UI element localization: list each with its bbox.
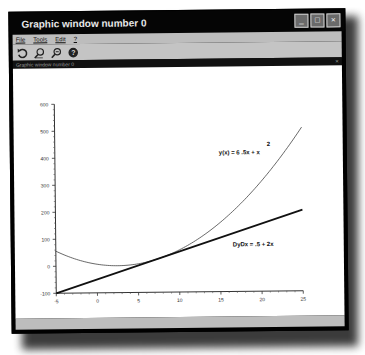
y-tick-label: 300 bbox=[41, 182, 50, 188]
zoom-out-button[interactable] bbox=[51, 47, 62, 58]
y-tick-label: 100 bbox=[41, 236, 50, 242]
menu-tools[interactable]: Tools bbox=[33, 34, 47, 44]
svg-text:?: ? bbox=[71, 49, 75, 56]
x-tick-label: 5 bbox=[137, 297, 140, 303]
x-tick-label: 10 bbox=[177, 297, 183, 303]
menu-help[interactable]: ? bbox=[74, 34, 77, 44]
y-tick-label: 200 bbox=[41, 209, 50, 215]
menu-edit[interactable]: Edit bbox=[55, 34, 65, 44]
zoom-in-button[interactable] bbox=[34, 47, 45, 58]
zoom-out-icon bbox=[51, 47, 62, 58]
status-bar bbox=[16, 315, 345, 329]
zoom-in-icon bbox=[34, 47, 45, 58]
rotate-button[interactable] bbox=[17, 47, 28, 58]
x-tick-label: 25 bbox=[301, 296, 307, 302]
x-tick-label: 0 bbox=[96, 298, 99, 304]
series-line bbox=[55, 210, 303, 294]
menu-file[interactable]: File bbox=[16, 35, 26, 45]
rotate-icon bbox=[17, 47, 28, 58]
curve-label-superscript: 2 bbox=[267, 141, 271, 147]
close-button[interactable]: × bbox=[326, 13, 340, 27]
window-title: Graphic window number 0 bbox=[21, 17, 146, 29]
minimize-button[interactable]: _ bbox=[294, 14, 308, 28]
curve-label: y(x) = 6 .5x + x bbox=[219, 149, 261, 155]
plot-area[interactable]: -1000100200300400500600-50510152025y(x) … bbox=[13, 65, 345, 318]
help-button[interactable]: ? bbox=[68, 47, 79, 58]
y-tick-label: 500 bbox=[40, 128, 49, 134]
x-tick-label: -5 bbox=[54, 298, 59, 304]
maximize-button[interactable]: □ bbox=[310, 13, 324, 27]
y-tick-label: 600 bbox=[40, 101, 49, 107]
line-label: DyDx = .5 + 2x bbox=[233, 241, 274, 247]
x-tick-label: 15 bbox=[218, 297, 224, 303]
y-axis bbox=[54, 104, 56, 293]
help-icon: ? bbox=[68, 47, 79, 58]
y-tick-label: 0 bbox=[47, 263, 50, 269]
y-tick-label: -100 bbox=[40, 290, 50, 296]
subwindow-close-button[interactable]: × bbox=[335, 57, 339, 65]
graphic-window: Graphic window number 0 _ □ × File Tools… bbox=[8, 8, 348, 334]
chart: -1000100200300400500600-50510152025y(x) … bbox=[13, 65, 345, 318]
x-tick-label: 20 bbox=[259, 296, 265, 302]
y-tick-label: 400 bbox=[40, 155, 49, 161]
subwindow-title: Graphic window number 0 bbox=[16, 61, 74, 68]
